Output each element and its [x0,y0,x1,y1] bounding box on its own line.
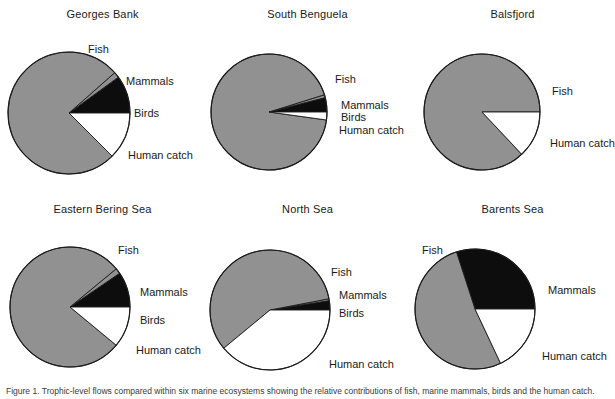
pie-graphic [410,8,615,200]
pie-chart-georges-bank: FishMammalsBirdsHuman catch [0,8,205,200]
pie-graphic [410,203,615,395]
pie-chart-barents-sea: FishMammalsHuman catch [410,203,615,395]
pie-panel-barents-sea: Barents Sea FishMammalsHuman catch [410,203,615,395]
slice-label-fish: Fish [331,267,352,278]
pie-chart-eastern-bering-sea: FishMammalsBirdsHuman catch [0,203,205,395]
slice-label-human-catch: Human catch [542,351,607,362]
slice-label-birds: Birds [134,108,159,119]
pie-chart-balsfjord: FishHuman catch [410,8,615,200]
slice-label-mammals: Mammals [126,76,174,87]
slice-label-birds: Birds [341,112,366,123]
slice-label-birds: Birds [339,308,364,319]
pie-graphic [0,203,205,395]
slice-label-mammals: Mammals [548,285,596,296]
slice-label-human-catch: Human catch [128,150,193,161]
slice-label-fish: Fish [552,86,573,97]
pie-graphic [0,8,205,200]
slice-label-human-catch: Human catch [329,359,394,370]
pie-panel-georges-bank: Georges Bank FishMammalsBirdsHuman catch [0,8,205,200]
pie-panel-balsfjord: Balsfjord FishHuman catch [410,8,615,200]
slice-label-birds: Birds [140,315,165,326]
slice-label-human-catch: Human catch [339,125,404,136]
slice-label-human-catch: Human catch [550,138,615,149]
figure-six-pie-charts: Georges Bank FishMammalsBirdsHuman catch… [0,0,615,399]
slice-label-mammals: Mammals [341,100,389,111]
pie-panel-eastern-bering-sea: Eastern Bering Sea FishMammalsBirdsHuman… [0,203,205,395]
pie-chart-south-benguela: FishMammalsBirdsHuman catch [205,8,410,200]
slice-label-fish: Fish [88,44,109,55]
figure-caption: Figure 1. Trophic-level flows compared w… [6,386,610,399]
slice-label-human-catch: Human catch [136,345,201,356]
slice-label-fish: Fish [422,245,443,256]
slice-label-mammals: Mammals [339,290,387,301]
slice-label-fish: Fish [118,245,139,256]
slice-label-mammals: Mammals [140,287,188,298]
pie-chart-north-sea: FishMammalsBirdsHuman catch [205,203,410,395]
pie-panel-south-benguela: South Benguela FishMammalsBirdsHuman cat… [205,8,410,200]
slice-label-fish: Fish [335,74,356,85]
pie-panel-north-sea: North Sea FishMammalsBirdsHuman catch [205,203,410,395]
